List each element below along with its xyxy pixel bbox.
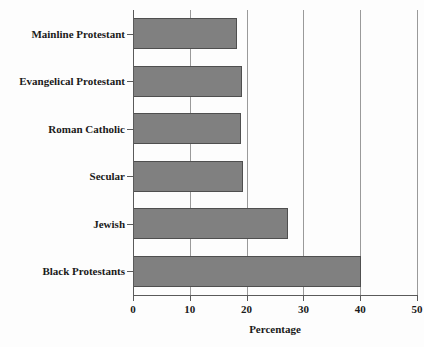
category-tick	[127, 176, 133, 177]
category-tick	[127, 224, 133, 225]
x-tick-label-0: 0	[130, 303, 136, 315]
gridline-10	[190, 10, 191, 295]
x-tick-0	[133, 295, 134, 301]
x-tick-label-20: 20	[241, 303, 252, 315]
category-tick	[127, 271, 133, 272]
bar-chart: 01020304050 Mainline ProtestantEvangelic…	[0, 0, 424, 347]
gridline-50	[417, 10, 418, 295]
bar	[133, 256, 361, 287]
category-tick	[127, 34, 133, 35]
x-tick-label-50: 50	[412, 303, 423, 315]
bar	[133, 113, 241, 144]
gridline-30	[303, 10, 304, 295]
x-tick-30	[303, 295, 304, 301]
x-axis-title: Percentage	[133, 323, 417, 335]
bar-row	[133, 66, 417, 97]
category-label: Roman Catholic	[0, 123, 125, 135]
gridline-20	[247, 10, 248, 295]
bar	[133, 66, 242, 97]
category-label: Black Protestants	[0, 265, 125, 277]
bar-row	[133, 113, 417, 144]
bar-row	[133, 161, 417, 192]
x-tick-10	[190, 295, 191, 301]
gridline-40	[360, 10, 361, 295]
plot-area	[133, 10, 417, 295]
category-tick	[127, 129, 133, 130]
x-tick-40	[360, 295, 361, 301]
x-axis-line	[133, 295, 417, 296]
bar	[133, 208, 288, 239]
bar	[133, 18, 237, 49]
x-tick-50	[417, 295, 418, 301]
category-label: Evangelical Protestant	[0, 75, 125, 87]
category-tick	[127, 81, 133, 82]
category-label: Secular	[0, 170, 125, 182]
x-tick-label-40: 40	[355, 303, 366, 315]
bar-row	[133, 208, 417, 239]
y-axis-line	[133, 10, 134, 295]
category-label: Mainline Protestant	[0, 28, 125, 40]
x-tick-20	[247, 295, 248, 301]
bar-row	[133, 256, 417, 287]
category-label: Jewish	[0, 218, 125, 230]
x-tick-label-10: 10	[184, 303, 195, 315]
bar	[133, 161, 243, 192]
x-tick-label-30: 30	[298, 303, 309, 315]
bar-row	[133, 18, 417, 49]
